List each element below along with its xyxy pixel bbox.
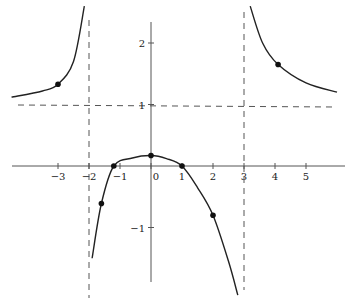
function-graph: −3−2−1012345 21−1: [0, 0, 350, 299]
marked-points: [55, 62, 281, 218]
asymptotes: [18, 12, 335, 298]
data-point: [148, 153, 154, 159]
y-tick-label: 1: [139, 100, 145, 111]
y-ticks: 21−1: [130, 38, 154, 234]
data-point: [275, 62, 281, 68]
data-point: [179, 163, 185, 169]
data-point: [55, 81, 61, 87]
y-tick-label: −1: [130, 223, 145, 234]
data-point: [111, 163, 117, 169]
data-point: [210, 212, 216, 218]
x-tick-label: 3: [241, 171, 247, 182]
y-tick-label: 2: [139, 38, 145, 49]
curve-branch: [250, 6, 337, 92]
curve-branch: [12, 6, 85, 97]
x-tick-label: 5: [303, 171, 309, 182]
axes: [12, 22, 345, 282]
curves: [12, 6, 338, 295]
x-tick-label: 1: [179, 171, 185, 182]
x-tick-label: −3: [51, 171, 66, 182]
data-point: [99, 201, 105, 207]
horizontal-asymptote-y-1: [18, 105, 335, 107]
x-tick-label: 4: [272, 171, 278, 182]
x-tick-label: 0: [153, 171, 159, 182]
x-tick-label: −1: [113, 171, 128, 182]
x-tick-label: 2: [210, 171, 216, 182]
x-tick-label: −2: [82, 171, 97, 182]
